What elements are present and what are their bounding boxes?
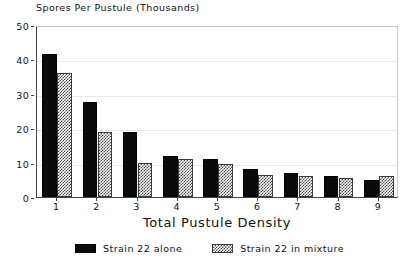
bar-solid <box>243 169 258 197</box>
y-tick-label: 40 <box>16 55 29 66</box>
bar-hatch <box>258 175 273 197</box>
x-tick-mark <box>96 198 97 201</box>
bar-solid <box>364 180 379 197</box>
bar-hatch <box>98 132 113 197</box>
x-tick-label: 1 <box>53 201 59 212</box>
legend-entry-series-2: Strain 22 in mixture <box>212 243 344 254</box>
x-tick-label: 2 <box>93 201 99 212</box>
bar-solid <box>284 173 299 197</box>
bar-hatch <box>379 176 394 197</box>
bar-group <box>83 27 113 197</box>
x-tick-mark <box>217 198 218 201</box>
x-axis: 123456789 <box>36 198 398 216</box>
x-tick-label: 7 <box>294 201 300 212</box>
bar-solid <box>42 54 57 197</box>
y-axis: 01020304050 <box>0 26 34 198</box>
bar-solid <box>123 132 138 197</box>
y-tick-mark <box>31 60 34 61</box>
bar-group <box>364 27 394 197</box>
y-tick-label: 0 <box>23 193 29 204</box>
x-tick-mark <box>378 198 379 201</box>
x-tick-label: 4 <box>174 201 180 212</box>
bar-hatch <box>138 163 153 197</box>
x-tick-mark <box>56 198 57 201</box>
bar-hatch <box>218 164 233 197</box>
bar-solid <box>324 176 339 197</box>
plot-area <box>36 26 398 198</box>
bar-group <box>324 27 354 197</box>
bar-chart: Spores Per Pustule (Thousands) 010203040… <box>0 0 419 268</box>
y-tick-mark <box>31 164 34 165</box>
bar-hatch <box>339 178 354 197</box>
chart-title: Spores Per Pustule (Thousands) <box>36 2 200 13</box>
x-tick-label: 5 <box>214 201 220 212</box>
x-tick-mark <box>137 198 138 201</box>
bar-group <box>203 27 233 197</box>
x-tick-label: 9 <box>375 201 381 212</box>
y-tick-mark <box>31 95 34 96</box>
y-tick-mark <box>31 198 34 199</box>
x-tick-label: 8 <box>334 201 340 212</box>
x-tick-mark <box>338 198 339 201</box>
y-tick-mark <box>31 26 34 27</box>
x-tick-mark <box>177 198 178 201</box>
bar-group <box>284 27 314 197</box>
x-tick-mark <box>297 198 298 201</box>
bars-layer <box>37 27 397 197</box>
legend-swatch-solid-icon <box>75 244 96 253</box>
legend-label-series-2: Strain 22 in mixture <box>240 243 344 254</box>
bar-group <box>42 27 72 197</box>
legend-label-series-1: Strain 22 alone <box>103 243 182 254</box>
y-tick-label: 20 <box>16 124 29 135</box>
chart-legend: Strain 22 alone Strain 22 in mixture <box>0 243 419 254</box>
bar-group <box>243 27 273 197</box>
x-axis-title: Total Pustule Density <box>36 215 398 230</box>
bar-solid <box>203 159 218 197</box>
y-tick-label: 30 <box>16 89 29 100</box>
bar-group <box>163 27 193 197</box>
bar-hatch <box>299 176 314 197</box>
y-tick-mark <box>31 129 34 130</box>
legend-swatch-hatch-icon <box>212 244 233 253</box>
bar-hatch <box>57 73 72 197</box>
bar-hatch <box>178 159 193 197</box>
y-tick-label: 10 <box>16 158 29 169</box>
bar-solid <box>163 156 178 197</box>
x-tick-label: 6 <box>254 201 260 212</box>
y-tick-label: 50 <box>16 21 29 32</box>
bar-solid <box>83 102 98 197</box>
legend-entry-series-1: Strain 22 alone <box>75 243 182 254</box>
x-tick-label: 3 <box>133 201 139 212</box>
bar-group <box>123 27 153 197</box>
x-tick-mark <box>257 198 258 201</box>
